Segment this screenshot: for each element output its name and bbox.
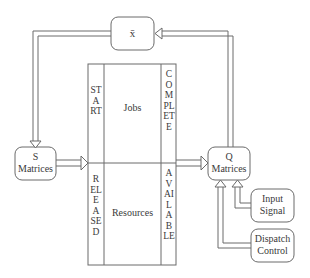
input-signal-line2: Signal [251, 205, 294, 217]
xbar-label: x̄ [111, 27, 154, 39]
resources-label: Resources [104, 207, 161, 219]
s-matrices-line2: Matrices [15, 163, 56, 175]
edge-dispatch-control-to-q [215, 180, 251, 248]
dispatch-control-line2: Control [251, 245, 294, 257]
dispatch-control-label: Dispatch Control [251, 233, 294, 257]
q-matrices-line1: Q [208, 151, 250, 163]
s-matrices-line1: S [15, 151, 56, 163]
edge-central-to-q [176, 156, 208, 170]
jobs-label: Jobs [104, 102, 161, 114]
dispatch-control-line1: Dispatch [251, 233, 294, 245]
start-label: START [90, 85, 102, 117]
edge-s-to-central [56, 156, 88, 170]
q-matrices-label: Q Matrices [208, 151, 250, 175]
input-signal-label: Input Signal [251, 193, 294, 217]
edge-input-signal-to-q [232, 180, 251, 208]
s-matrices-label: S Matrices [15, 151, 56, 175]
q-matrices-line2: Matrices [208, 163, 250, 175]
released-label: RELEASED [90, 174, 102, 237]
complete-label: COMPLETE [163, 69, 175, 132]
input-signal-line1: Input [251, 193, 294, 205]
available-label: AVAILABLE [163, 168, 175, 242]
